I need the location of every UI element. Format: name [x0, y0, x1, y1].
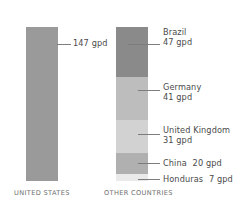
callout-united-kingdom-label: United Kingdom [163, 125, 230, 135]
leader-line-germany [138, 90, 160, 91]
callout-china-label: China [163, 158, 187, 168]
bar-segment-brazil [116, 27, 148, 77]
callout-united-kingdom-value: 31 gpd [163, 136, 230, 146]
callout-germany-label: Germany [163, 82, 201, 92]
callout-brazil-value: 47 gpd [163, 38, 192, 48]
callout-china-value: 20 gpd [193, 158, 222, 168]
leader-line-honduras [138, 179, 160, 180]
leader-line-china [138, 163, 160, 164]
callout-china: China 20 gpd [163, 159, 222, 169]
callout-honduras-label: Honduras [163, 174, 203, 184]
category-label-other-countries: OTHER COUNTRIES [104, 189, 173, 197]
callout-germany-value: 41 gpd [163, 93, 201, 103]
leader-line-united-kingdom [138, 134, 160, 135]
bar-united-states [26, 27, 58, 181]
category-label-united-states: UNITED STATES [14, 189, 70, 197]
callout-united-states-value: 147 gpd [73, 38, 108, 48]
bar-other-countries [116, 27, 148, 181]
callout-honduras: Honduras 7 gpd [163, 175, 233, 185]
callout-brazil: Brazil 47 gpd [163, 28, 192, 47]
callout-united-states: 147 gpd [73, 39, 108, 49]
bar-segment-germany [116, 77, 148, 120]
leader-line-united-states [57, 44, 71, 45]
leader-line-brazil [128, 44, 160, 45]
water-usage-bar-chart: 147 gpd Brazil 47 gpd Germany 41 gpd Uni… [0, 0, 241, 210]
callout-honduras-value: 7 gpd [209, 174, 233, 184]
callout-germany: Germany 41 gpd [163, 83, 201, 102]
callout-brazil-label: Brazil [163, 27, 186, 37]
bar-segment-united-kingdom [116, 120, 148, 153]
callout-united-kingdom: United Kingdom 31 gpd [163, 126, 230, 145]
